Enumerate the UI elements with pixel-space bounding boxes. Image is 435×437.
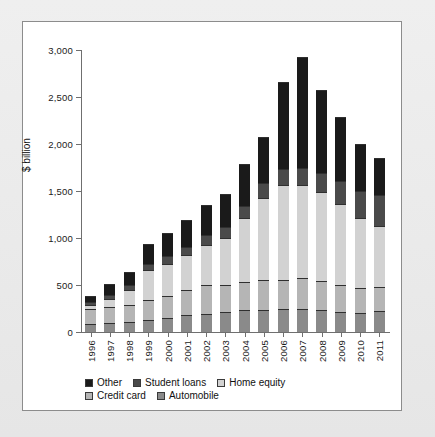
- bar-stack[interactable]: [278, 82, 289, 332]
- y-axis-title: $ billion: [21, 138, 32, 172]
- bar-segment: [278, 169, 289, 185]
- bar-segment: [335, 117, 346, 181]
- bar-segment: [162, 296, 173, 318]
- bar-segment: [143, 270, 154, 300]
- y-axis-tick-label: 2,000: [48, 139, 73, 150]
- legend-item[interactable]: Automobile: [157, 391, 219, 401]
- legend-label: Credit card: [97, 391, 146, 401]
- legend-swatch-icon: [85, 379, 93, 387]
- bar-segment: [374, 287, 385, 311]
- bar-segment: [258, 310, 269, 332]
- bar-stack[interactable]: [297, 57, 308, 332]
- bar-segment: [220, 227, 231, 238]
- bar-segment: [220, 312, 231, 332]
- legend-swatch-icon: [157, 392, 165, 400]
- bar-segment: [297, 309, 308, 332]
- x-axis-tick-label: 2003: [220, 340, 231, 362]
- x-axis-tick-mark: [91, 333, 92, 337]
- bar-segment: [355, 313, 366, 332]
- y-axis-tick-label: 3,000: [48, 45, 73, 56]
- x-axis-tick-label: 2008: [317, 340, 328, 362]
- bar-segment: [335, 181, 346, 204]
- bar-segment: [143, 244, 154, 264]
- x-axis-tick-mark: [302, 333, 303, 337]
- bar-stack[interactable]: [104, 284, 115, 332]
- bar-segment: [258, 280, 269, 310]
- x-axis-tick-mark: [283, 333, 284, 337]
- bar-stack[interactable]: [258, 137, 269, 332]
- x-axis-tick-label: 1998: [124, 340, 135, 362]
- bar-segment: [220, 238, 231, 285]
- x-axis-tick-mark: [264, 333, 265, 337]
- bar-segment: [297, 168, 308, 185]
- bar-segment: [239, 206, 250, 219]
- x-axis-tick-mark: [206, 333, 207, 337]
- bar-segment: [220, 194, 231, 226]
- bar-segment: [239, 310, 250, 332]
- bar-stack[interactable]: [355, 144, 366, 332]
- bar-segment: [162, 318, 173, 332]
- legend-label: Student loans: [145, 378, 206, 388]
- bar-segment: [278, 280, 289, 310]
- x-axis-tick-mark: [168, 333, 169, 337]
- chart-figure: $ billion 05001,0001,5002,0002,5003,000 …: [0, 0, 435, 437]
- legend-swatch-icon: [133, 379, 141, 387]
- bar-segment: [220, 285, 231, 312]
- x-axis-tick-label: 2000: [163, 340, 174, 362]
- legend-item[interactable]: Home equity: [217, 378, 285, 388]
- legend-row: OtherStudent loansHome equity: [85, 378, 385, 388]
- x-axis-tick-mark: [379, 333, 380, 337]
- x-axis-tick-label: 2010: [355, 340, 366, 362]
- bar-stack[interactable]: [220, 194, 231, 332]
- bar-segment: [201, 285, 212, 313]
- bar-segment: [143, 320, 154, 332]
- x-axis-tick-label: 2007: [297, 340, 308, 362]
- x-axis-tick-label: 2011: [374, 340, 385, 361]
- x-axis-tick-label: 2001: [182, 340, 193, 362]
- bar-segment: [181, 255, 192, 290]
- bar-segment: [355, 288, 366, 313]
- legend-swatch-icon: [85, 392, 93, 400]
- bar-segment: [278, 309, 289, 332]
- bar-segment: [374, 311, 385, 332]
- x-axis-tick-mark: [148, 333, 149, 337]
- legend-label: Home equity: [229, 378, 285, 388]
- bar-segment: [297, 278, 308, 309]
- bar-segment: [297, 57, 308, 168]
- bar-segment: [85, 296, 96, 303]
- bar-stack[interactable]: [124, 272, 135, 332]
- bar-stack[interactable]: [316, 90, 327, 332]
- bar-stack[interactable]: [181, 220, 192, 332]
- bar-segment: [143, 264, 154, 271]
- bar-segment: [201, 205, 212, 235]
- bar-segment: [316, 90, 327, 173]
- bar-stack[interactable]: [85, 296, 96, 332]
- bar-stack[interactable]: [162, 233, 173, 332]
- bar-stack[interactable]: [239, 164, 250, 332]
- bar-segment: [181, 290, 192, 315]
- bar-segment: [181, 247, 192, 255]
- bar-segment: [143, 300, 154, 320]
- plot-area: [81, 50, 389, 332]
- legend-item[interactable]: Other: [85, 378, 122, 388]
- bar-stack[interactable]: [374, 158, 385, 332]
- y-axis-tick-label: 1,000: [48, 233, 73, 244]
- bar-segment: [374, 226, 385, 287]
- x-axis-tick-label: 2009: [336, 340, 347, 362]
- bar-segment: [278, 185, 289, 279]
- bar-segment: [104, 307, 115, 323]
- bar-segment: [201, 235, 212, 244]
- bar-segment: [239, 218, 250, 282]
- y-axis-tick-label: 1,500: [48, 186, 73, 197]
- bar-segment: [201, 314, 212, 332]
- x-axis-tick-mark: [341, 333, 342, 337]
- legend-item[interactable]: Credit card: [85, 391, 146, 401]
- x-axis-tick-mark: [322, 333, 323, 337]
- bar-stack[interactable]: [335, 117, 346, 332]
- x-axis-line: [81, 332, 390, 333]
- bar-stack[interactable]: [143, 244, 154, 332]
- bar-segment: [104, 284, 115, 296]
- legend-item[interactable]: Student loans: [133, 378, 206, 388]
- x-axis-tick-label: 2006: [278, 340, 289, 362]
- bar-stack[interactable]: [201, 205, 212, 332]
